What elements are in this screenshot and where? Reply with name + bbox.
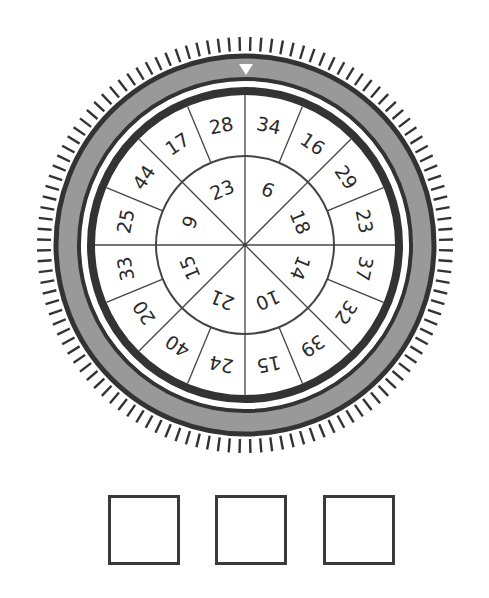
tick-mark — [329, 57, 335, 70]
tick-mark — [290, 434, 293, 448]
tick-mark — [410, 346, 422, 353]
tick-mark — [436, 207, 450, 210]
tick-mark — [260, 38, 261, 52]
tick-mark — [176, 49, 181, 62]
tick-mark — [270, 39, 272, 53]
outer-number: 15 — [255, 352, 283, 378]
tick-mark — [118, 399, 127, 410]
tick-mark — [38, 260, 52, 261]
tick-mark — [53, 319, 66, 324]
tick-mark — [53, 165, 66, 170]
tick-mark — [62, 338, 74, 345]
tick-mark — [310, 49, 315, 62]
tick-mark — [386, 379, 396, 389]
tick-mark — [165, 424, 170, 437]
tick-mark — [379, 386, 389, 396]
tick-mark — [207, 436, 210, 450]
tick-mark — [399, 118, 410, 127]
tick-mark — [110, 87, 119, 98]
tick-mark — [127, 405, 135, 417]
tick-mark — [399, 363, 410, 372]
tick-mark — [405, 355, 417, 363]
tick-mark — [218, 437, 220, 451]
tick-mark — [218, 39, 220, 53]
tick-mark — [186, 431, 190, 444]
tick-mark — [355, 74, 363, 86]
tick-mark — [74, 127, 86, 135]
tick-mark — [57, 155, 70, 161]
tick-mark — [420, 155, 433, 161]
tick-mark — [319, 53, 324, 66]
tick-mark — [371, 87, 380, 98]
tick-mark — [102, 94, 112, 104]
tick-mark — [207, 40, 210, 54]
tick-mark — [260, 438, 261, 452]
tick-mark — [431, 186, 444, 190]
tick-mark — [68, 346, 80, 353]
tick-mark — [40, 280, 54, 283]
tick-mark — [39, 218, 53, 220]
tick-mark — [62, 146, 74, 153]
tick-mark — [424, 165, 437, 170]
outer-number: 34 — [255, 112, 283, 138]
tick-mark — [43, 196, 57, 199]
tick-mark — [338, 62, 345, 74]
tick-mark — [415, 338, 427, 345]
tick-mark — [165, 53, 170, 66]
tick-mark — [102, 386, 112, 396]
tick-mark — [87, 110, 98, 119]
tick-mark — [46, 300, 59, 304]
tick-mark — [338, 415, 345, 427]
tick-mark — [434, 290, 448, 293]
outer-number: 24 — [207, 352, 235, 378]
tick-mark — [196, 434, 199, 448]
tick-mark — [436, 280, 450, 283]
tick-mark — [38, 229, 52, 230]
tick-mark — [438, 260, 452, 261]
tick-mark — [428, 176, 441, 181]
tick-mark — [300, 431, 304, 444]
tick-mark — [229, 38, 230, 52]
outer-number: 33 — [112, 255, 138, 283]
tick-mark — [310, 428, 315, 441]
tick-mark — [386, 102, 396, 112]
tick-mark — [420, 329, 433, 335]
tick-mark — [346, 68, 353, 80]
tick-mark — [155, 57, 161, 70]
tick-mark — [437, 218, 451, 220]
tick-mark — [290, 43, 293, 57]
tick-mark — [329, 420, 335, 433]
tick-mark — [379, 94, 389, 104]
tick-mark — [371, 393, 380, 404]
tick-mark — [136, 68, 143, 80]
answer-box-3[interactable] — [323, 495, 395, 565]
tick-mark — [146, 62, 153, 74]
tick-mark — [434, 196, 448, 199]
tick-mark — [280, 40, 283, 54]
answer-box-2[interactable] — [215, 495, 287, 565]
tick-mark — [229, 438, 230, 452]
center-pin — [243, 243, 247, 247]
tick-mark — [39, 270, 53, 272]
tick-mark — [393, 371, 404, 380]
tick-mark — [196, 43, 199, 57]
tick-mark — [87, 371, 98, 380]
tick-mark — [80, 118, 91, 127]
outer-number: 37 — [352, 255, 378, 283]
tick-mark — [118, 80, 127, 91]
combination-dial[interactable]: 34162923373239152440203325441728 6181410… — [0, 0, 489, 490]
tick-mark — [136, 410, 143, 422]
tick-mark — [94, 102, 104, 112]
outer-number: 25 — [112, 207, 138, 235]
tick-mark — [410, 136, 422, 143]
tick-mark — [57, 329, 70, 335]
tick-mark — [74, 355, 86, 363]
tick-mark — [355, 405, 363, 417]
tick-mark — [46, 186, 59, 190]
answer-box-1[interactable] — [108, 495, 180, 565]
tick-mark — [393, 110, 404, 119]
tick-mark — [80, 363, 91, 372]
tick-mark — [428, 310, 441, 315]
tick-mark — [346, 410, 353, 422]
tick-mark — [110, 393, 119, 404]
